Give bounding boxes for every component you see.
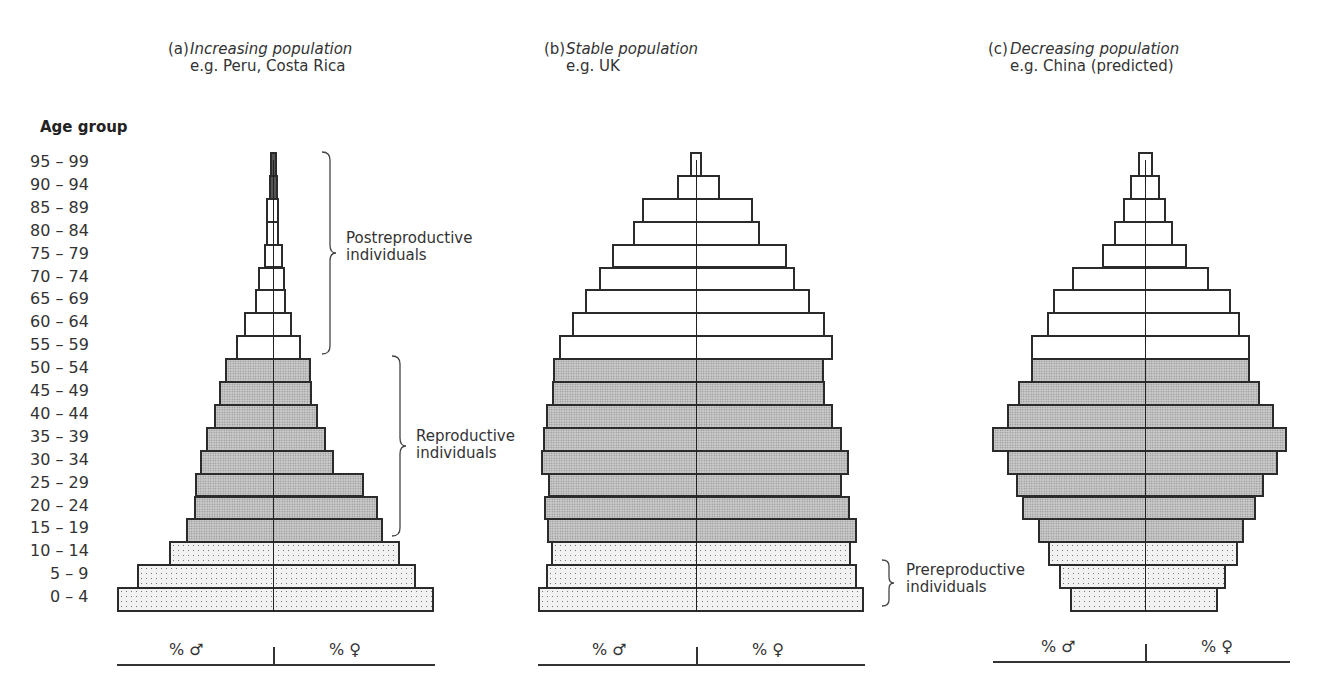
bar-a-3539 [206,427,326,452]
age-label: 95 – 99 [30,153,89,171]
bar-b-1014 [551,541,851,566]
panel-b-title: (b)Stable population e.g. UK [544,41,698,75]
age-label: 55 – 59 [30,336,89,354]
panel-c-title: (c)Decreasing population e.g. China (pre… [988,41,1179,75]
bar-b-9094 [677,175,720,200]
female-percent-label-c: % ♀ [1201,637,1233,656]
age-label: 5 – 9 [50,565,89,583]
male-percent-label-a: % ♂ [169,640,204,659]
panel-c-tag: (c) [988,41,1010,58]
age-label: 75 – 79 [30,245,89,263]
postreproductive-label: Postreproductive individuals [346,230,472,264]
bar-c-4044 [1007,404,1274,429]
panel-c-name: Decreasing population [1010,40,1179,58]
bar-a-4044 [214,404,318,429]
bar-b-1519 [547,518,857,543]
age-label: 40 – 44 [30,405,89,423]
x-axis-b [538,664,865,666]
center-axis-a [273,160,274,612]
female-percent-label-b: % ♀ [752,640,784,659]
age-label: 85 – 89 [30,199,89,217]
bar-b-04 [538,587,864,612]
age-label: 0 – 4 [50,588,89,606]
bar-b-4549 [552,381,825,406]
bar-b-2529 [548,473,842,498]
postreproductive-brace-icon [320,150,340,356]
bar-c-2024 [1022,496,1256,521]
x-axis-center-tick-c [1145,644,1147,662]
bar-c-7074 [1072,267,1209,292]
age-label: 15 – 19 [30,519,89,537]
bar-a-6569 [255,289,286,314]
age-label: 80 – 84 [30,222,89,240]
age-label: 30 – 34 [30,451,89,469]
panel-b-tag: (b) [544,41,566,58]
bar-a-7074 [258,267,285,292]
y-axis-title: Age group [40,118,128,136]
bar-c-59 [1059,564,1226,589]
age-label: 65 – 69 [30,290,89,308]
bar-b-3539 [543,427,842,452]
bar-a-3034 [200,450,334,475]
bar-b-3034 [541,450,849,475]
x-axis-center-tick-a [273,647,275,665]
bar-a-1014 [169,541,400,566]
x-axis-center-tick-b [696,647,698,665]
bar-a-6064 [244,312,292,337]
bar-c-6569 [1053,289,1231,314]
bar-b-7579 [612,244,787,269]
age-label: 35 – 39 [30,428,89,446]
bar-b-59 [546,564,857,589]
age-label: 70 – 74 [30,268,89,286]
bar-c-8084 [1114,221,1173,246]
bar-c-6064 [1047,312,1240,337]
age-label: 25 – 29 [30,474,89,492]
panel-a-example: e.g. Peru, Costa Rica [168,58,352,75]
bar-b-6569 [585,289,810,314]
male-percent-label-c: % ♂ [1041,637,1076,656]
panel-a-tag: (a) [168,41,190,58]
age-label: 20 – 24 [30,497,89,515]
bar-c-4549 [1018,381,1260,406]
bar-a-04 [117,587,434,612]
bar-a-59 [137,564,416,589]
x-axis-a [117,664,435,666]
bar-c-1519 [1038,518,1244,543]
age-label: 90 – 94 [30,176,89,194]
bar-c-2529 [1016,473,1264,498]
bar-b-7074 [599,267,795,292]
age-label: 50 – 54 [30,359,89,377]
panel-b-name: Stable population [566,40,698,58]
bar-a-2529 [195,473,364,498]
reproductive-brace-icon [390,354,410,538]
panel-b-example: e.g. UK [544,58,698,75]
bar-a-5559 [236,335,301,360]
bar-a-1519 [186,518,383,543]
bar-c-3539 [992,427,1287,452]
bar-c-1014 [1048,541,1238,566]
x-axis-c [993,661,1290,663]
bar-b-4044 [546,404,833,429]
bar-c-3034 [1007,450,1278,475]
age-label: 10 – 14 [30,542,89,560]
panel-a-name: Increasing population [190,40,352,58]
age-label: 60 – 64 [30,313,89,331]
prereproductive-label: Prereproductive individuals [906,562,1025,596]
bar-c-5054 [1031,358,1250,383]
panel-c-example: e.g. China (predicted) [988,58,1179,75]
bar-c-5559 [1031,335,1250,360]
panel-a-title: (a)Increasing population e.g. Peru, Cost… [168,41,352,75]
prereproductive-brace-icon [880,558,900,608]
female-percent-label-a: % ♀ [329,640,361,659]
bar-b-2024 [544,496,850,521]
bar-c-04 [1070,587,1218,612]
bar-b-8589 [642,198,753,223]
bar-b-5054 [553,358,824,383]
bar-a-2024 [194,496,378,521]
center-axis-b [696,160,697,612]
center-axis-c [1145,160,1146,612]
bar-b-6064 [572,312,825,337]
reproductive-label: Reproductive individuals [416,428,515,462]
bar-a-4549 [219,381,312,406]
age-label: 45 – 49 [30,382,89,400]
